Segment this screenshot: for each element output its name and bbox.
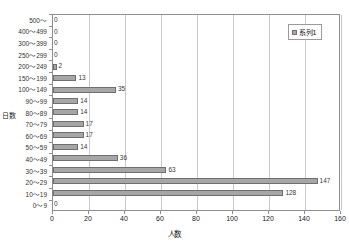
- bar-value-label: 36: [120, 155, 127, 162]
- bar-value-label: 0: [54, 201, 58, 208]
- x-axis-tick-label: 80: [192, 215, 200, 222]
- x-axis-tick-label: 60: [156, 215, 164, 222]
- x-axis-tick: [232, 211, 233, 214]
- bar-value-label: 17: [86, 132, 93, 139]
- bar-row: 0: [53, 199, 339, 210]
- bar-value-label: 14: [80, 98, 87, 105]
- bar-row: 14: [53, 141, 339, 152]
- x-axis-tick-label: 140: [298, 215, 310, 222]
- bar-row: 36: [53, 153, 339, 164]
- bar[interactable]: [53, 132, 84, 138]
- y-axis-label: 400～499: [0, 26, 50, 38]
- y-axis-label: 300～399: [0, 37, 50, 49]
- bar[interactable]: [53, 121, 84, 127]
- y-axis-label: 150～199: [0, 72, 50, 84]
- y-axis-label: 90～99: [0, 95, 50, 107]
- x-axis-tick: [124, 211, 125, 214]
- bar[interactable]: [53, 167, 166, 173]
- legend-swatch-icon: [292, 30, 297, 35]
- x-axis-tick: [196, 211, 197, 214]
- x-axis-tick: [340, 211, 341, 214]
- y-axis-label: 500～: [0, 14, 50, 26]
- x-axis-tick: [88, 211, 89, 214]
- bar-row: 13: [53, 72, 339, 83]
- bar[interactable]: [53, 87, 116, 93]
- bar-value-label: 13: [78, 75, 85, 82]
- bar-row: 35: [53, 84, 339, 95]
- bar[interactable]: [53, 64, 57, 70]
- legend-label: 系列1: [299, 27, 316, 37]
- bar-value-label: 0: [54, 52, 58, 59]
- bar-row: 14: [53, 95, 339, 106]
- bar-value-label: 17: [86, 121, 93, 128]
- x-axis-tick-label: 40: [120, 215, 128, 222]
- x-axis-tick-label: 160: [334, 215, 346, 222]
- bar[interactable]: [53, 190, 283, 196]
- bar-value-label: 14: [80, 144, 87, 151]
- bar-value-label: 0: [54, 29, 58, 36]
- y-axis-label: 10～19: [0, 188, 50, 200]
- y-axis-label: 60～69: [0, 130, 50, 142]
- x-axis-tick-label: 20: [84, 215, 92, 222]
- legend[interactable]: 系列1: [288, 24, 322, 40]
- bar-row: 17: [53, 118, 339, 129]
- bar[interactable]: [53, 98, 78, 104]
- x-axis-title: 人数: [0, 228, 349, 239]
- bar-row: 147: [53, 176, 339, 187]
- bar-chart: 日数 500～400～499300～399250～299200～249150～1…: [0, 0, 349, 246]
- bar-rows: 000021335141417171436631471280: [53, 15, 339, 210]
- bar-row: 128: [53, 187, 339, 198]
- y-axis-label: 70～79: [0, 118, 50, 130]
- y-axis-category-labels: 500～400～499300～399250～299200～249150～1991…: [0, 14, 50, 211]
- bar-value-label: 2: [59, 63, 63, 70]
- bar-value-label: 0: [54, 17, 58, 24]
- bar-value-label: 128: [285, 190, 296, 197]
- gridline: [341, 15, 342, 210]
- bar-row: 0: [53, 49, 339, 60]
- y-axis-label: 250～299: [0, 49, 50, 61]
- plot-area: 000021335141417171436631471280: [52, 14, 340, 211]
- bar[interactable]: [53, 144, 78, 150]
- bar-row: 63: [53, 164, 339, 175]
- bar[interactable]: [53, 109, 78, 115]
- bar-value-label: 63: [168, 167, 175, 174]
- bar-value-label: 35: [118, 86, 125, 93]
- y-axis-label: 50～59: [0, 142, 50, 154]
- bar-value-label: 14: [80, 109, 87, 116]
- y-axis-label: 30～39: [0, 165, 50, 177]
- bar-row: 17: [53, 130, 339, 141]
- bar-row: 14: [53, 107, 339, 118]
- y-axis-label: 20～29: [0, 176, 50, 188]
- x-axis-tick: [160, 211, 161, 214]
- bar[interactable]: [53, 75, 76, 81]
- y-axis-label: 100～149: [0, 84, 50, 96]
- bar[interactable]: [53, 155, 118, 161]
- bar-value-label: 147: [320, 178, 331, 185]
- x-axis-tick: [304, 211, 305, 214]
- bar[interactable]: [53, 178, 318, 184]
- y-axis-label: 80～89: [0, 107, 50, 119]
- x-axis-tick: [268, 211, 269, 214]
- x-axis-tick-label: 100: [226, 215, 238, 222]
- bar-row: 2: [53, 61, 339, 72]
- x-axis-tick-label: 0: [50, 215, 54, 222]
- y-axis-label: 200～249: [0, 60, 50, 72]
- y-axis-label: 0～9: [0, 200, 50, 212]
- y-axis-label: 40～49: [0, 153, 50, 165]
- x-axis-tick: [52, 211, 53, 214]
- bar-value-label: 0: [54, 40, 58, 47]
- x-axis-tick-labels: 020406080100120140160: [52, 215, 340, 227]
- x-axis-tick-label: 120: [262, 215, 274, 222]
